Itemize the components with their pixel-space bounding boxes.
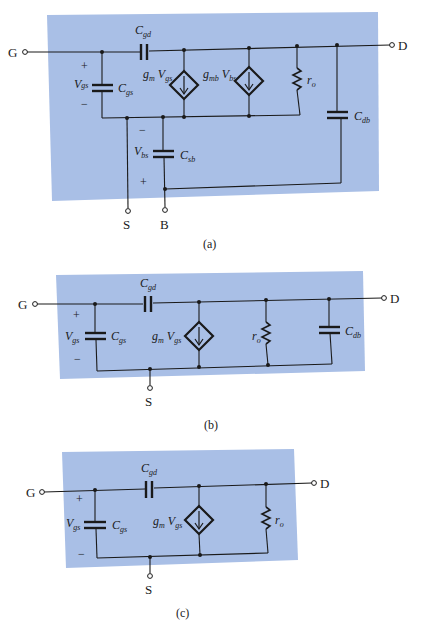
junction-dot [197, 365, 201, 369]
body-label: B [160, 217, 169, 232]
gate-terminal[interactable] [33, 302, 38, 307]
circuit-diagram-a: G D Cgd Cgs + Vgs − gm Vgs gmb Vbs ro Cd… [0, 0, 422, 265]
source-terminal[interactable] [148, 386, 153, 391]
vbs-minus: − [139, 123, 146, 137]
gate-terminal[interactable] [40, 490, 45, 495]
circuit-diagram-b: G D Cgd Cgs + Vgs − gm Vgs ro Cdb S (b) [0, 265, 422, 440]
junction-dot [198, 553, 202, 557]
panel-background [47, 12, 379, 201]
vgs-minus: − [81, 97, 88, 111]
figure-c: G D Cgd Cgs + Vgs − gm Vgs ro S (c) [0, 440, 422, 625]
figure-caption-b: (b) [204, 418, 218, 432]
drain-terminal[interactable] [312, 481, 317, 486]
vgs-minus: − [78, 547, 85, 561]
vbs-plus: + [140, 175, 147, 189]
body-terminal[interactable] [163, 208, 168, 213]
vgs-plus: + [81, 59, 88, 73]
gate-label: G [8, 45, 17, 60]
panel-background [62, 449, 298, 568]
gate-terminal[interactable] [23, 50, 28, 55]
junction-dot [247, 114, 251, 118]
figure-caption-a: (a) [203, 237, 216, 251]
junction-dot [266, 363, 270, 367]
source-terminal[interactable] [148, 574, 153, 579]
figure-a: G D Cgd Cgs + Vgs − gm Vgs gmb Vbs ro Cd… [0, 0, 422, 265]
source-label: S [145, 394, 152, 409]
vgs-minus: − [74, 352, 81, 366]
drain-terminal[interactable] [382, 296, 387, 301]
vgs-plus: + [76, 492, 83, 506]
gate-label: G [18, 297, 27, 312]
figure-caption-c: (c) [176, 606, 189, 620]
source-terminal[interactable] [126, 209, 131, 214]
drain-label: D [398, 38, 407, 53]
junction-dot [182, 115, 186, 119]
drain-label: D [390, 291, 399, 306]
source-label: S [145, 582, 152, 597]
source-label: S [123, 217, 130, 232]
gate-label: G [26, 485, 35, 500]
drain-label: D [320, 476, 329, 491]
vgs-plus: + [73, 308, 80, 322]
figure-b: G D Cgd Cgs + Vgs − gm Vgs ro Cdb S (b) [0, 265, 422, 440]
circuit-diagram-c: G D Cgd Cgs + Vgs − gm Vgs ro S (c) [0, 440, 422, 625]
panel-background [56, 271, 365, 379]
drain-terminal[interactable] [390, 43, 395, 48]
